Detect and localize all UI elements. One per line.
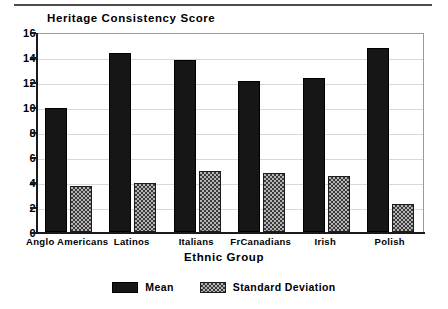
legend-label: Mean [145,281,173,293]
bar-mean [174,60,196,232]
x-axis-tick-label: Irish [314,236,336,247]
y-axis-tick-mark [30,57,36,59]
chart-page: Heritage Consistency Score 0246810121416… [0,0,448,309]
gridline [38,134,423,135]
y-axis-tick-mark [30,182,36,184]
y-axis-tick-mark [30,82,36,84]
legend-label: Standard Deviation [233,281,336,293]
x-axis-tick-label: Polish [375,236,405,247]
gridline [38,184,423,185]
x-axis-tick-label: Italians [179,236,214,247]
x-axis-line [36,232,425,234]
y-axis-tick-mark [30,32,36,34]
bar-standard-deviation [199,171,221,232]
bar-standard-deviation [328,176,350,232]
legend-item: Standard Deviation [200,281,336,293]
y-axis-tick-mark [30,157,36,159]
bar-mean [367,48,389,232]
x-axis-title: Ethnic Group [0,251,448,263]
bar-mean [238,81,260,232]
bar-standard-deviation [263,173,285,232]
plot-area [37,33,424,233]
y-axis-tick-mark [30,132,36,134]
x-axis-tick-label: Latinos [114,236,150,247]
legend-item: Mean [112,281,173,293]
gridline [38,209,423,210]
bar-standard-deviation [392,204,414,232]
x-axis-tick-label: FrCanadians [230,236,291,247]
bar-standard-deviation [134,183,156,232]
y-axis-tick-mark [30,207,36,209]
x-axis-tick-label: Anglo Americans [26,236,108,247]
gridline [38,109,423,110]
chart-title: Heritage Consistency Score [47,12,215,24]
y-axis-line [36,33,38,234]
y-axis-tick-mark [30,232,36,234]
gridline [38,159,423,160]
bar-mean [303,78,325,232]
page-top-rule [14,4,432,6]
bar-mean [109,53,131,232]
gridline [38,59,423,60]
bar-mean [45,108,67,232]
gridline [38,84,423,85]
y-axis-tick-mark [30,107,36,109]
legend-swatch-mean [112,282,138,293]
bar-standard-deviation [70,186,92,232]
chart-legend: MeanStandard Deviation [0,281,448,293]
legend-swatch-sd [200,282,226,293]
